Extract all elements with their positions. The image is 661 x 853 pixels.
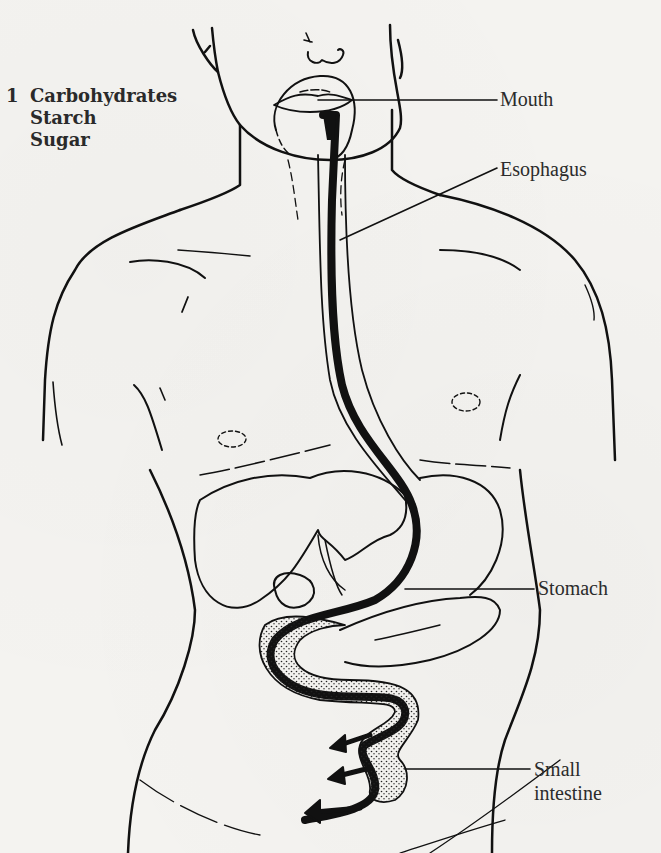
heading-sugar: Sugar	[6, 129, 177, 151]
head-outline	[180, 25, 440, 220]
label-esophagus: Esophagus	[500, 158, 587, 180]
heading-carbohydrates: Carbohydrates	[30, 85, 177, 106]
diagram-page: 1Carbohydrates Starch Sugar Mouth Esopha…	[0, 0, 661, 853]
heading-number: 1	[6, 85, 30, 107]
organs-outline	[194, 471, 502, 666]
label-small-intestine-line2: intestine	[534, 782, 602, 804]
heading-starch: Starch	[6, 107, 177, 129]
nutrient-heading: 1Carbohydrates Starch Sugar	[6, 85, 177, 151]
label-mouth: Mouth	[500, 88, 553, 110]
label-stomach: Stomach	[538, 577, 608, 599]
label-small-intestine-line1: Small	[534, 758, 581, 780]
